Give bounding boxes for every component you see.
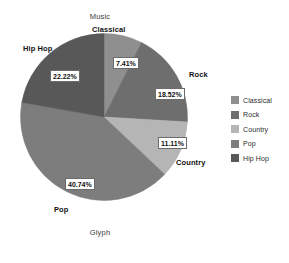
pie-chart: Music Classical Rock Country Pop Hip Hop… xyxy=(0,0,289,263)
chart-x-axis-label: Glyph xyxy=(0,228,200,237)
slice-value-country: 11.11% xyxy=(158,137,187,149)
slice-value-classical: 7.41% xyxy=(113,57,139,69)
slice-label-country: Country xyxy=(176,158,205,167)
legend-item-country[interactable]: Country xyxy=(231,125,272,133)
slice-value-pop: 40.74% xyxy=(65,178,95,190)
legend-item-hip-hop[interactable]: Hip Hop xyxy=(231,154,272,162)
slice-label-classical: Classical xyxy=(92,25,125,34)
legend-label: Pop xyxy=(243,140,256,147)
legend-swatch-icon xyxy=(231,125,239,133)
legend-label: Classical xyxy=(243,97,272,104)
legend-item-rock[interactable]: Rock xyxy=(231,111,272,119)
legend-label: Rock xyxy=(243,111,259,118)
legend-swatch-icon xyxy=(231,111,239,119)
legend-item-pop[interactable]: Pop xyxy=(231,140,272,148)
legend-item-classical[interactable]: Classical xyxy=(231,96,272,104)
legend-label: Country xyxy=(243,126,268,133)
slice-label-pop: Pop xyxy=(54,205,68,214)
slice-value-hip-hop: 22.22% xyxy=(50,70,80,82)
slice-label-rock: Rock xyxy=(189,70,208,79)
legend-label: Hip Hop xyxy=(243,155,269,162)
chart-title: Music xyxy=(0,12,200,21)
chart-legend: ClassicalRockCountryPopHip Hop xyxy=(231,96,272,162)
legend-swatch-icon xyxy=(231,140,239,148)
slice-value-rock: 18.52% xyxy=(155,88,185,100)
legend-swatch-icon xyxy=(231,154,239,162)
pie-svg xyxy=(20,33,188,201)
pie-graphic xyxy=(20,33,188,201)
legend-swatch-icon xyxy=(231,96,239,104)
slice-label-hip-hop: Hip Hop xyxy=(23,44,52,53)
